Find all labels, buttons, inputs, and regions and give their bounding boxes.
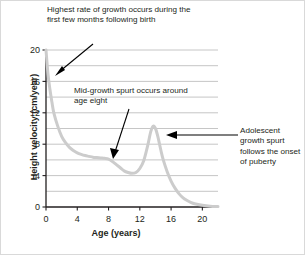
arrow-head-adolescent [166,131,177,139]
x-tick-label-16: 16 [166,214,176,224]
x-tick-label-0: 0 [43,214,48,224]
growth-velocity-figure: 048121620 048121620 Highest rate of grow… [0,0,306,256]
annotation-mid-growth-spurt: Mid-growth spurt occurs around age eight [74,86,199,107]
x-axis-label: Age (years) [0,228,232,238]
annotation-adolescent-growth-spurt: Adolescent growth spurt follows the onse… [240,126,306,168]
arrow-line-top [59,44,93,72]
x-tick-label-12: 12 [135,214,145,224]
x-tick-label-4: 4 [75,214,80,224]
arrow-head-mid [110,148,119,159]
arrow-line-mid [115,109,129,152]
y-axis-label: Height velocity (cm/year) [29,47,39,207]
annotation-highest-growth-rate: Highest rate of growth occurs during the… [47,5,197,26]
gridlines-group [46,50,218,191]
arrow-head-top [55,66,65,76]
x-tick-label-8: 8 [106,214,111,224]
x-tick-label-20: 20 [197,214,207,224]
x-axis-ticks-group: 048121620 [43,207,207,224]
